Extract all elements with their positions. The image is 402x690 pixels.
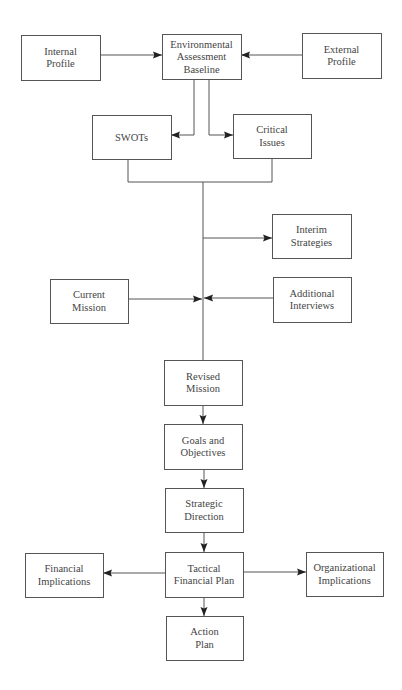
arrowhead-icon [193,296,202,303]
connector-line [128,158,272,182]
connector-external-profile-to-environmental-assessment-baseline [241,52,302,59]
node-financial-implications: FinancialImplications [26,554,104,598]
node-label: Plan [195,639,214,650]
node-label: Assessment [177,51,227,62]
node-label: Mission [72,302,107,313]
connector-strategic-direction-to-tactical-financial-plan [201,532,208,552]
node-label: Baseline [183,64,219,75]
flowchart-diagram: InternalProfileEnvironmentalAssessmentBa… [0,0,402,690]
connector-tactical-financial-plan-to-action-plan [201,597,208,616]
connector-trunk-to-interim-strategies [203,235,272,242]
arrowhead-icon [241,52,250,59]
node-organizational-implications: OrganizationalImplications [307,553,384,597]
node-label: Financial Plan [174,575,235,586]
node-label: Current [73,289,105,300]
connector-internal-profile-to-environmental-assessment-baseline [100,52,162,59]
node-label: Environmental [170,39,232,50]
arrowhead-icon [171,132,180,139]
node-label: Critical [256,124,288,135]
connector-tactical-financial-plan-to-financial-implications [103,570,165,577]
node-label: Profile [327,56,356,67]
node-label: Implications [38,576,91,587]
node-label: Interim [296,224,327,235]
connector-environmental-assessment-baseline-to-critical-issues [209,79,233,139]
node-label: Strategies [291,237,332,248]
connector-swots-to-merge [128,158,272,182]
node-label: Goals and [182,435,225,446]
connector-environmental-assessment-baseline-to-swots [171,79,194,139]
arrowhead-icon [153,52,162,59]
node-label: Action [190,626,219,637]
node-tactical-financial-plan: TacticalFinancial Plan [166,553,244,598]
node-goals-and-objectives: Goals andObjectives [165,425,243,470]
node-current-mission: CurrentMission [51,280,129,324]
node-label: Revised [186,371,221,382]
node-label: Profile [46,58,75,69]
arrowhead-icon [224,132,233,139]
node-label: Additional [290,288,335,299]
connector-revised-mission-to-goals-and-objectives [200,405,207,424]
node-label: Strategic [185,498,223,509]
node-internal-profile: InternalProfile [22,36,101,81]
node-revised-mission: RevisedMission [165,361,243,406]
connector-current-mission-to-trunk [128,296,202,303]
node-additional-interviews: AdditionalInterviews [274,278,352,323]
connector-line [209,79,233,135]
node-label: Direction [184,511,224,522]
node-label: Objectives [181,447,226,458]
node-label: External [324,44,360,55]
node-swots: SWOTs [93,116,172,160]
connector-tactical-financial-plan-to-organizational-implications [243,569,306,576]
node-action-plan: ActionPlan [167,617,244,661]
connector-line [171,79,194,135]
node-external-profile: ExternalProfile [303,34,382,79]
connector-goals-and-objectives-to-strategic-direction [201,469,208,488]
connector-additional-interviews-to-trunk [204,295,273,302]
node-label: Mission [186,383,221,394]
arrowhead-icon [204,295,213,302]
node-label: Internal [44,46,77,57]
node-label: Financial [44,563,83,574]
node-label: Organizational [313,562,375,573]
node-label: SWOTs [115,132,148,143]
node-label: Interviews [290,300,334,311]
node-strategic-direction: StrategicDirection [166,489,244,533]
node-environmental-assessment-baseline: EnvironmentalAssessmentBaseline [163,35,242,80]
node-interim-strategies: InterimStrategies [273,215,352,259]
node-label: Issues [259,137,285,148]
node-critical-issues: CriticalIssues [234,115,312,159]
arrowhead-icon [103,570,112,577]
node-label: Tactical [187,563,220,574]
node-label: Implications [318,575,371,586]
